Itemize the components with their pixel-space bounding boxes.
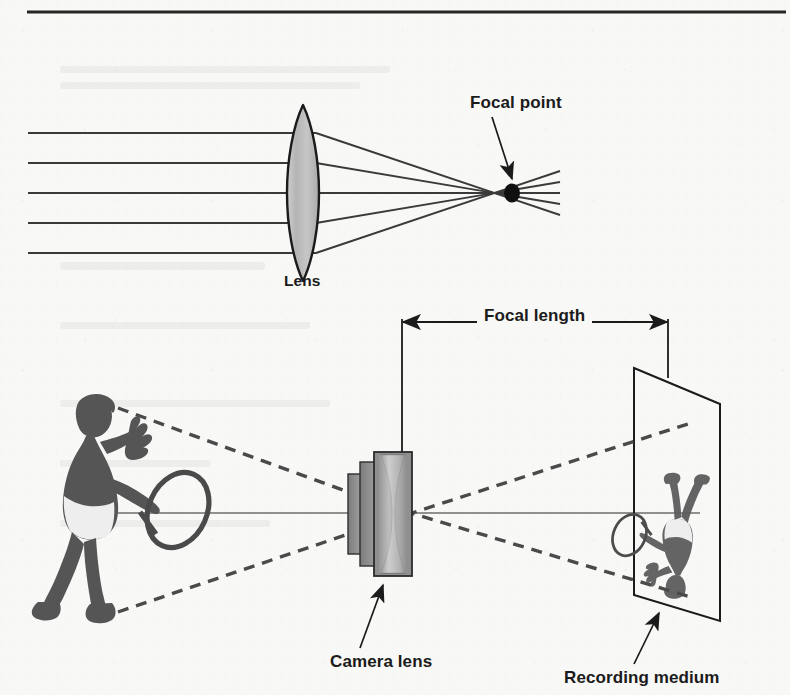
- label-camera-lens: Camera lens: [330, 652, 432, 672]
- tennis-player: [32, 394, 221, 623]
- camera-lens-callout: [360, 585, 383, 648]
- label-recording-medium: Recording medium: [564, 668, 720, 688]
- recording-medium-callout: [634, 613, 659, 664]
- label-lens: Lens: [284, 272, 321, 290]
- incoming-rays: [28, 133, 316, 253]
- label-focal-length: Focal length: [477, 306, 592, 326]
- camera-lens: [348, 452, 412, 576]
- optics-diagram-artwork: [0, 0, 790, 695]
- tennis-racket: [136, 463, 221, 558]
- converging-rays: [316, 133, 560, 253]
- lens-glass: [287, 105, 319, 281]
- bottom-panel: [32, 319, 720, 664]
- inverted-tennis-player: [606, 473, 710, 599]
- focal-point-callout: [492, 117, 512, 179]
- figure-page: Focal point Lens Focal length Camera len…: [0, 0, 790, 695]
- focal-point-dot: [504, 184, 520, 203]
- label-focal-point: Focal point: [470, 93, 562, 113]
- camera-lens-glass-body: [379, 455, 407, 573]
- inverted-racket: [606, 509, 653, 561]
- top-panel: [28, 105, 560, 281]
